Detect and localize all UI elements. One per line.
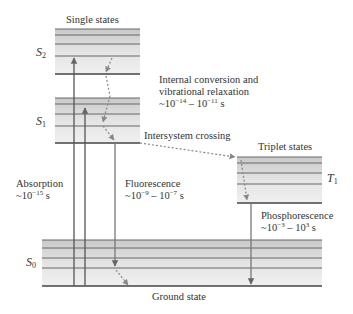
t1-band — [237, 157, 322, 203]
intersystem-crossing-arrow — [140, 143, 235, 157]
triplet-states-label: Triplet states — [258, 141, 312, 153]
s1-band — [55, 98, 140, 143]
internal-conversion-label: Internal conversion and vibrational rela… — [159, 74, 258, 110]
s2-label: S2 — [36, 46, 46, 58]
singlet-states-label: Single states — [66, 14, 119, 26]
ground-state-label: Ground state — [152, 291, 206, 303]
fluorescence-label: Fluorescence ~10−9 – 10−7 s — [125, 178, 184, 202]
s0-label: S0 — [26, 256, 36, 268]
intersystem-crossing-label: Intersystem crossing — [144, 130, 231, 142]
jablonski-diagram — [0, 0, 353, 314]
t1-label: T1 — [327, 172, 338, 184]
absorption-label: Absorption ~10−15 s — [16, 178, 63, 202]
s1-label: S1 — [36, 115, 46, 127]
phosphorescence-label: Phosphorescence ~10−3 – 103 s — [261, 210, 333, 234]
s0-band — [42, 240, 322, 286]
s2-band — [55, 29, 140, 74]
